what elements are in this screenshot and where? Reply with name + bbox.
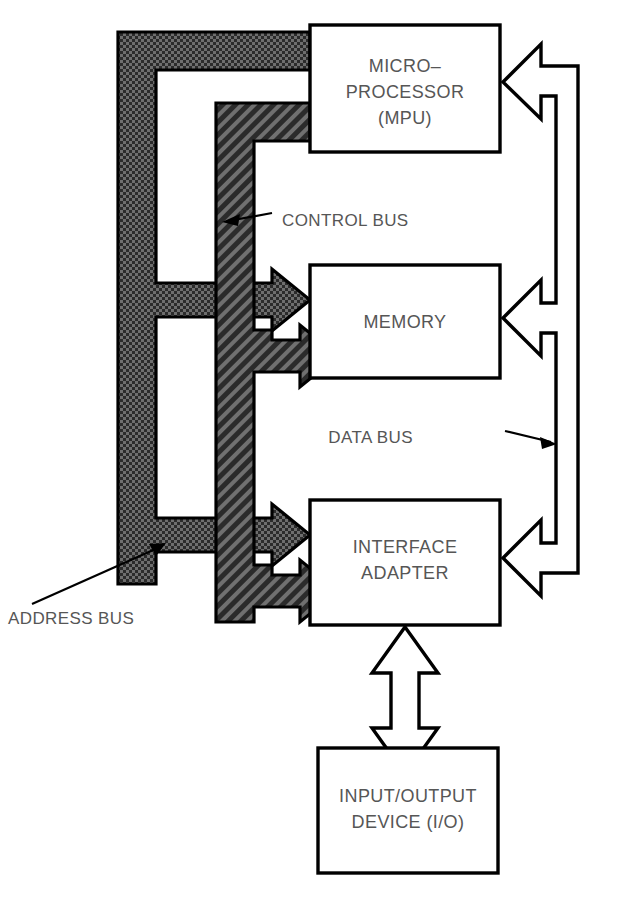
memory-block[interactable]: MEMORY bbox=[310, 265, 500, 378]
diagram-svg: MICRO– PROCESSOR (MPU) MEMORY INTERFACE … bbox=[0, 0, 620, 899]
microprocessor-block[interactable]: MICRO– PROCESSOR (MPU) bbox=[310, 25, 500, 152]
io-device-box bbox=[318, 748, 498, 873]
memory-label: MEMORY bbox=[363, 312, 446, 332]
data-bus-path bbox=[503, 44, 578, 596]
interface-adapter-label-line1: INTERFACE bbox=[353, 537, 458, 557]
microprocessor-label-line2: PROCESSOR bbox=[346, 82, 465, 102]
io-device-label-line2: DEVICE (I/O) bbox=[352, 812, 465, 832]
block-diagram-canvas: MICRO– PROCESSOR (MPU) MEMORY INTERFACE … bbox=[0, 0, 620, 899]
control-bus-label: CONTROL BUS bbox=[282, 211, 409, 230]
interface-adapter-label-line2: ADAPTER bbox=[361, 563, 449, 583]
address-bus-label: ADDRESS BUS bbox=[8, 609, 134, 628]
io-device-label-line1: INPUT/OUTPUT bbox=[339, 786, 477, 806]
data-bus-label: DATA BUS bbox=[328, 428, 413, 447]
io-device-block[interactable]: INPUT/OUTPUT DEVICE (I/O) bbox=[318, 748, 498, 873]
microprocessor-label-line1: MICRO– bbox=[369, 56, 441, 76]
data-bus bbox=[503, 44, 578, 596]
data-bus-annotation: DATA BUS bbox=[328, 428, 557, 449]
interface-adapter-block[interactable]: INTERFACE ADAPTER bbox=[310, 500, 500, 625]
microprocessor-label-line3: (MPU) bbox=[378, 108, 432, 128]
